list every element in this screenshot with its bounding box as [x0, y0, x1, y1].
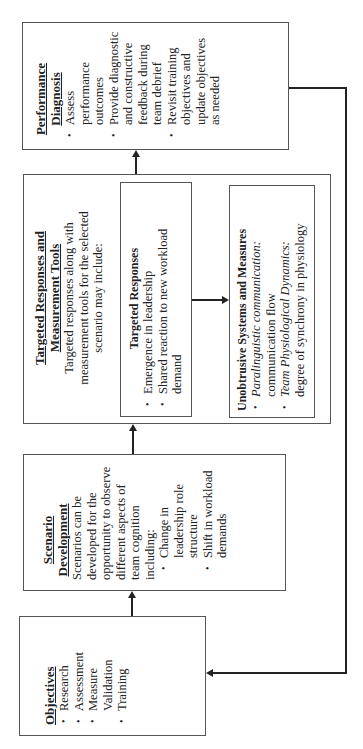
performance-title: Performance Diagnosis: [33, 59, 63, 139]
unobtrusive-list: •Paralinguistic communication:communicat…: [249, 190, 307, 411]
performance-list: •Assess performance outcomes •Provide di…: [63, 31, 223, 139]
unobtrusive-box: Unobtrusive Systems and Measures •Parali…: [229, 185, 315, 418]
list-item: •Shift in workload demands: [201, 462, 230, 572]
arrowhead-icon: [222, 296, 229, 304]
flow-diagram: Objectives •Research •Assessment •Measur…: [0, 0, 363, 749]
list-item: •Change in leadership role structure: [157, 462, 201, 572]
feedback-line-across: [345, 87, 347, 674]
scenario-box: Scenario Development Scenarios can be de…: [23, 454, 286, 591]
list-item: •Revisit training objectives and update …: [165, 31, 223, 139]
feedback-line-up: [213, 672, 347, 674]
arrow-responses-to-unobtrusive: [192, 299, 222, 301]
list-item: •Measure Validation: [86, 623, 115, 725]
list-item: •Research: [57, 623, 72, 725]
list-item: •Provide diagnostic and constructive fee…: [107, 31, 165, 139]
list-item: •Paralinguistic communication:communicat…: [249, 190, 278, 411]
arrow-scenario-to-targeted: [132, 431, 134, 454]
list-item: •Emergence in leadership: [141, 189, 156, 408]
objectives-title: Objectives: [42, 623, 57, 725]
list-item: •Shared reaction to new workload demand: [156, 189, 185, 408]
arrow-objectives-to-scenario: [131, 598, 133, 616]
arrow-targeted-to-performance: [135, 157, 137, 174]
targeted-responses-title: Targeted Responses: [127, 189, 141, 408]
objectives-list: •Research •Assessment •Measure Validatio…: [57, 623, 130, 725]
targeted-responses-list: •Emergence in leadership •Shared reactio…: [141, 189, 185, 408]
objectives-box: Objectives •Research •Assessment •Measur…: [19, 616, 206, 736]
targeted-responses-box: Targeted Responses •Emergence in leaders…: [120, 182, 192, 417]
targeted-title: Targeted Responses and Measurement Tools: [32, 213, 62, 383]
arrowhead-icon: [206, 669, 213, 677]
list-item: •Assessment: [72, 623, 87, 725]
list-item: •Training: [115, 623, 130, 725]
list-item: •Team Physiological Dynamics:degree of s…: [278, 190, 307, 411]
scenario-text: Scenarios can be developed for the oppor…: [70, 462, 157, 580]
unobtrusive-title: Unobtrusive Systems and Measures: [235, 190, 249, 411]
targeted-text: Targeted responses along with measuremen…: [62, 211, 106, 386]
scenario-list: •Change in leadership role structure •Sh…: [157, 462, 230, 580]
arrowhead-icon: [128, 591, 136, 598]
arrowhead-icon: [132, 150, 140, 157]
performance-box: Performance Diagnosis •Assess performanc…: [22, 22, 289, 150]
feedback-line-down: [289, 87, 347, 89]
scenario-title: Scenario Development: [40, 500, 70, 580]
list-item: •Assess performance outcomes: [63, 31, 107, 139]
arrowhead-icon: [129, 424, 137, 431]
